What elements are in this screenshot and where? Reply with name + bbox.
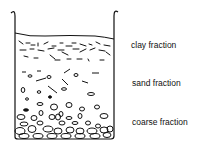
clay-fraction-label: clay fraction <box>131 40 176 50</box>
clay-layer <box>19 41 110 61</box>
coarse-fraction-label: coarse fraction <box>132 117 188 127</box>
water-surface <box>15 33 114 39</box>
sand-fraction-label: sand fraction <box>132 78 181 88</box>
container-walls <box>11 11 118 139</box>
container <box>11 11 118 139</box>
sand-layer <box>21 69 99 100</box>
coarse-layer <box>15 103 113 139</box>
